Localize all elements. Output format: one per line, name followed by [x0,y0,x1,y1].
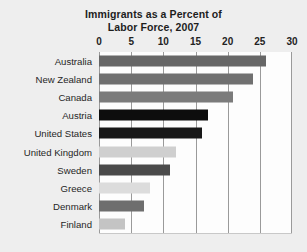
bar [99,218,125,229]
x-axis-tick-label: 5 [128,36,134,47]
x-axis-tick-label: 30 [286,36,297,47]
bar [99,128,202,139]
y-axis-category-label: Australia [55,56,92,67]
y-axis-category-label: United Kingdom [24,146,92,157]
x-axis-tick-labels: 051015202530 [0,36,307,49]
y-axis-category-label: New Zealand [35,74,92,85]
x-axis-tick-label: 10 [158,36,169,47]
x-axis-tick-label: 0 [96,36,102,47]
immigrants-labor-force-bar-chart: Immigrants as a Percent of Labor Force, … [0,0,307,252]
chart-title-line-2: Labor Force, 2007 [0,21,307,34]
chart-title-line-1: Immigrants as a Percent of [0,8,307,21]
gridline [260,52,261,233]
chart-title: Immigrants as a Percent of Labor Force, … [0,8,307,34]
bar [99,56,266,67]
y-axis-category-label: Austria [62,110,92,121]
gridline [291,52,292,233]
bar [99,110,208,121]
y-axis-category-label: United States [34,128,92,139]
plot-area [99,52,292,233]
bar [99,182,150,193]
bar [99,74,253,85]
x-axis-tick-label: 25 [254,36,265,47]
y-axis-category-label: Sweden [57,164,92,175]
y-axis-category-labels: AustraliaNew ZealandCanadaAustriaUnited … [0,52,97,233]
y-axis-category-label: Greece [61,182,92,193]
x-axis-tick-label: 20 [222,36,233,47]
y-axis-category-label: Canada [58,92,92,103]
bar [99,92,233,103]
x-axis-tick-label: 15 [190,36,201,47]
plot-bottom-rule [99,233,292,234]
y-axis-category-label: Finland [61,218,92,229]
bar [99,164,170,175]
bar [99,200,144,211]
y-axis-category-label: Denmark [53,200,92,211]
bar [99,146,176,157]
